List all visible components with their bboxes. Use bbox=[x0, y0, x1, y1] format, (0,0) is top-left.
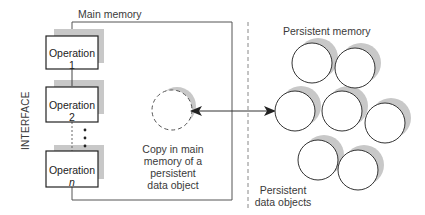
caption-line: persistent bbox=[136, 167, 210, 179]
operation-1-label: Operation 1 bbox=[46, 47, 98, 71]
persistent-object bbox=[292, 43, 332, 83]
persistent-object bbox=[338, 150, 378, 190]
persistent-object bbox=[298, 140, 338, 180]
ellipsis-dot bbox=[84, 129, 87, 132]
persistent-objects-group bbox=[275, 38, 411, 190]
interface-label: INTERFACE bbox=[20, 91, 31, 150]
persistent-objects-caption: Persistent data objects bbox=[252, 184, 314, 208]
caption-line: memory of a bbox=[136, 155, 210, 167]
persistent-object bbox=[335, 48, 375, 88]
caption-line: data object bbox=[136, 179, 210, 191]
persistent-memory-label: Persistent memory bbox=[283, 25, 371, 37]
caption-line: Persistent bbox=[252, 184, 314, 196]
caption-line: Copy in main bbox=[136, 143, 210, 155]
ellipsis-dot bbox=[84, 137, 87, 140]
persistent-object bbox=[275, 91, 315, 131]
copy-caption: Copy in main memory of a persistent data… bbox=[136, 143, 210, 191]
copy-object-circle bbox=[152, 90, 192, 130]
caption-line: data objects bbox=[252, 196, 314, 208]
ellipsis-dot bbox=[84, 145, 87, 148]
main-memory-label: Main memory bbox=[78, 8, 142, 20]
persistent-object bbox=[365, 103, 405, 143]
persistent-object bbox=[322, 91, 362, 131]
operation-n-label: Operation n bbox=[46, 164, 98, 188]
operation-2-label: Operation 2 bbox=[46, 99, 98, 123]
